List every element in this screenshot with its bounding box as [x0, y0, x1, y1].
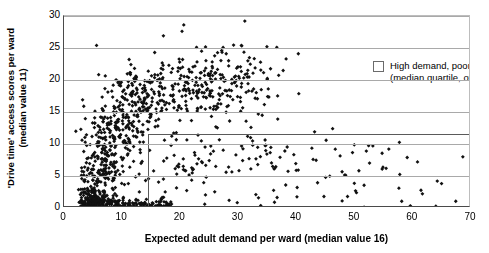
gridline: [64, 144, 469, 145]
x-tick-label: 60: [397, 212, 427, 222]
y-tick-label: 15: [34, 106, 60, 116]
gridline: [64, 112, 469, 113]
gridline: [64, 48, 469, 49]
y-axis-label-line1: 'Drive time' access scores per ward: [5, 27, 17, 187]
x-axis-tick-labels: 010203040506070: [0, 212, 489, 226]
x-tick-label: 50: [339, 212, 369, 222]
x-tick-label: 10: [106, 212, 136, 222]
x-tick-label: 0: [48, 212, 78, 222]
y-axis-label: 'Drive time' access scores per ward (med…: [0, 0, 34, 215]
legend-label-line2: (median quartile, of 1019 wards): [390, 72, 470, 84]
legend-swatch-icon: [373, 61, 384, 72]
legend-label-line1: High demand, poor access: [390, 60, 470, 72]
gridline: [64, 80, 469, 81]
x-tick-label: 20: [164, 212, 194, 222]
y-tick-label: 10: [34, 138, 60, 148]
y-tick-label: 0: [34, 202, 60, 212]
y-tick-label: 20: [34, 74, 60, 84]
y-tick-label: 5: [34, 170, 60, 180]
y-tick-label: 30: [34, 10, 60, 20]
x-tick-label: 30: [222, 212, 252, 222]
y-tick-label: 25: [34, 42, 60, 52]
x-tick-label: 40: [281, 212, 311, 222]
gridline: [64, 176, 469, 177]
scatter-chart-figure: 'Drive time' access scores per ward (med…: [0, 0, 489, 253]
gridline: [64, 16, 469, 17]
plot-area: High demand, poor access (median quartil…: [63, 15, 470, 207]
x-tick-label: 70: [455, 212, 485, 222]
chart-legend: High demand, poor access (median quartil…: [371, 58, 470, 86]
high-demand-poor-access-region: [148, 134, 470, 207]
x-axis-label: Expected adult demand per ward (median v…: [63, 233, 470, 244]
y-axis-label-line2: (median value 11): [17, 27, 29, 187]
